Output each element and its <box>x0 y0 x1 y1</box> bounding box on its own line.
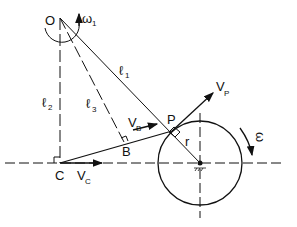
label-P: P <box>167 112 176 127</box>
label-l3: ℓ <box>86 96 91 111</box>
label-omega: ω <box>253 132 268 142</box>
omega-arc <box>240 128 252 155</box>
l1-line <box>60 18 200 163</box>
mechanism-diagram: O ω 1 ℓ 1 ℓ 2 ℓ 3 V B B P V P r ω C V C <box>0 0 297 227</box>
label-l3-sub: 3 <box>92 105 97 114</box>
right-angle-C <box>54 157 60 163</box>
label-l1-sub: 1 <box>125 71 130 80</box>
label-O: O <box>45 13 55 28</box>
label-omega1: ω <box>82 11 92 26</box>
label-omega1-sub: 1 <box>92 19 97 28</box>
label-r: r <box>185 134 190 149</box>
label-C: C <box>55 168 64 183</box>
label-VC-sub: C <box>85 177 91 186</box>
wheel-pivot <box>198 161 203 166</box>
label-B: B <box>122 144 131 159</box>
vp-arrow <box>172 93 213 131</box>
label-l2: ℓ <box>42 95 47 110</box>
l3-line <box>60 18 124 142</box>
label-VB-sub: B <box>136 124 141 133</box>
label-VP-sub: P <box>224 89 229 98</box>
label-l1: ℓ <box>119 63 124 78</box>
connecting-rod <box>60 131 172 163</box>
label-l2-sub: 2 <box>48 103 53 112</box>
